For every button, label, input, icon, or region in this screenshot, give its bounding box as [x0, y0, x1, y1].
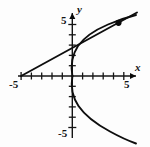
x-axis-label: x — [135, 62, 141, 73]
x-axis-arrowhead — [130, 73, 136, 79]
graph-canvas — [0, 0, 150, 147]
x-axis-min-tick-label: -5 — [9, 79, 18, 90]
parabola-curve-upper — [72, 15, 136, 77]
cartesian-graph-figure: y x 5 -5 -5 5 — [0, 0, 150, 147]
y-axis-max-tick-label: 5 — [61, 15, 67, 26]
x-axis-max-tick-label: 5 — [124, 79, 130, 90]
tangent-point-marker — [115, 20, 121, 26]
x-axis — [18, 72, 136, 80]
y-axis-label: y — [77, 4, 82, 15]
y-axis-min-tick-label: -5 — [58, 128, 67, 139]
y-axis-arrowhead — [69, 13, 75, 19]
